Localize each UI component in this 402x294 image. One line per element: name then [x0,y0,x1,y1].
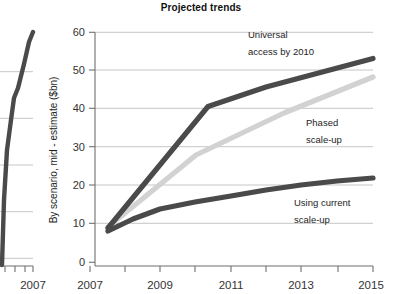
ytick-label-0: 0 [79,256,85,268]
main-chart: 60 50 40 30 20 10 0 2007 2009 2011 2013 … [48,26,384,291]
y-axis-title: By scenario, mid - estimate ($bn) [48,77,59,224]
ytick-label-40: 40 [73,102,85,114]
series-label-using-current-scale-up-line1: Using current [294,197,351,208]
series-label-universal-access-line2: access by 2010 [248,46,314,57]
side-xtick-label-2007: 2007 [20,279,46,291]
chart-screenshot: Projected trends 2007 [0,0,402,294]
ytick-label-10: 10 [73,217,85,229]
ytick-label-20: 20 [73,179,85,191]
side-chart-partial: 2007 [0,32,46,291]
series-label-universal-access: Universal access by 2010 [248,29,314,57]
series-label-phased-scale-up: Phased scale-up [306,117,342,145]
xtick-label-2015: 2015 [358,279,384,291]
chart-canvas: 2007 60 50 40 30 20 10 [0,0,402,294]
xtick-label-2007: 2007 [77,279,103,291]
ytick-label-60: 60 [73,26,85,38]
side-chart-series [2,32,33,265]
xtick-label-2013: 2013 [288,279,314,291]
series-label-phased-scale-up-line1: Phased [306,117,338,128]
xtick-label-2009: 2009 [147,279,173,291]
series-label-using-current-scale-up: Using current scale-up [294,197,351,225]
xtick-label-2011: 2011 [219,279,244,291]
series-label-phased-scale-up-line2: scale-up [306,134,342,145]
series-label-using-current-scale-up-line2: scale-up [294,214,330,225]
series-label-universal-access-line1: Universal [248,29,288,40]
ytick-label-30: 30 [73,141,85,153]
ytick-label-50: 50 [73,64,85,76]
